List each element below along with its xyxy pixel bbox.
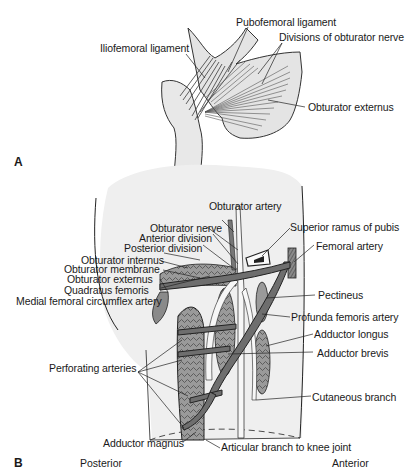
orientation-anterior: Anterior	[332, 457, 369, 469]
orientation-posterior: Posterior	[80, 457, 122, 469]
label-adductor-brevis: Adductor brevis	[317, 347, 388, 359]
label-cutaneous-branch: Cutaneous branch	[312, 391, 396, 403]
label-adductor-magnus: Adductor magnus	[103, 437, 184, 449]
label-profunda-femoris-artery: Profunda femoris artery	[291, 311, 398, 323]
label-pectineus: Pectineus	[318, 289, 363, 301]
label-pubofemoral-ligament: Pubofemoral ligament	[236, 16, 336, 28]
label-obturator-artery: Obturator artery	[209, 200, 282, 212]
label-posterior-division: Posterior division	[124, 242, 202, 254]
label-superior-ramus-of-pubis: Superior ramus of pubis	[290, 221, 399, 233]
label-perforating-arteries: Perforating arteries	[49, 362, 136, 374]
label-femoral-artery: Femoral artery	[316, 240, 383, 252]
label-adductor-longus: Adductor longus	[314, 328, 388, 340]
label-medial-femoral-circumflex-artery: Medial femoral circumflex artery	[16, 295, 162, 307]
label-iliofemoral-ligament: Iliofemoral ligament	[100, 42, 189, 54]
label-articular-branch-to-knee-joint: Articular branch to knee joint	[221, 441, 351, 453]
label-obturator-externus-a: Obturator externus	[308, 101, 394, 113]
label-divisions-of-obturator-nerve: Divisions of obturator nerve	[279, 31, 404, 43]
panel-label-a: A	[14, 155, 23, 169]
panel-label-b: B	[14, 456, 23, 470]
